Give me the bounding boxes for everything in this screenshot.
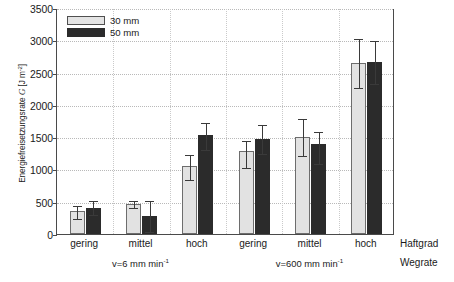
gridline-y: [57, 41, 393, 42]
legend-swatch-50mm: [67, 28, 105, 37]
error-bar-cap: [201, 150, 210, 151]
y-tick-label: 3500: [30, 4, 53, 15]
y-tick-label: 2000: [30, 100, 53, 111]
x-tick-label: gering: [239, 238, 267, 249]
error-bar-cap: [298, 156, 307, 157]
error-bar-cap: [298, 119, 307, 120]
error-bar-cap: [145, 201, 154, 202]
y-tick-label: 500: [36, 197, 53, 208]
error-bar: [190, 155, 191, 180]
x-tick-label: mittel: [298, 238, 322, 249]
x-axis-name-haftgrad: Haftgrad: [400, 238, 438, 249]
error-bar-cap: [73, 219, 82, 220]
error-bar-cap: [258, 125, 267, 126]
y-tick-mark: [53, 235, 57, 236]
legend: 30 mm 50 mm: [67, 15, 139, 39]
y-tick-label: 2500: [30, 68, 53, 79]
gridline-y: [57, 138, 393, 139]
error-bar-cap: [354, 39, 363, 40]
y-tick-mark: [53, 9, 57, 10]
error-bar-cap: [185, 180, 194, 181]
error-bar: [246, 141, 247, 168]
error-bar: [375, 41, 376, 84]
caption-strip: [10, 275, 340, 280]
plot-area: 30 mm 50 mm 0500100015002000250030003500: [56, 9, 394, 235]
x-tick-label: gering: [70, 238, 98, 249]
legend-label-30mm: 30 mm: [110, 15, 139, 26]
y-tick-label: 3000: [30, 36, 53, 47]
error-bar: [150, 201, 151, 232]
error-bar-cap: [370, 84, 379, 85]
y-tick-mark: [53, 41, 57, 42]
gridline-y: [57, 74, 393, 75]
gridline-x: [170, 9, 171, 234]
x-tick-label: hoch: [355, 238, 377, 249]
y-tick-mark: [53, 170, 57, 171]
y-tick-label: 1500: [30, 133, 53, 144]
legend-label-50mm: 50 mm: [110, 27, 139, 38]
error-bar-cap: [185, 155, 194, 156]
y-axis-unit-open: [J m: [17, 71, 27, 88]
y-tick-mark: [53, 106, 57, 107]
error-bar: [359, 39, 360, 88]
gridline-x: [339, 9, 340, 234]
gridline-x: [226, 9, 227, 234]
y-tick-mark: [53, 138, 57, 139]
error-bar-cap: [242, 141, 251, 142]
error-bar-cap: [129, 208, 138, 209]
error-bar-cap: [89, 215, 98, 216]
legend-item: 50 mm: [67, 27, 139, 38]
x-group-label-text: v=600 mm min: [276, 258, 338, 269]
y-axis-unit-close: ]: [17, 64, 27, 66]
error-bar-cap: [73, 206, 82, 207]
error-bar-cap: [201, 123, 210, 124]
energy-release-rate-bar-chart: Energiefreisetzungsrate G [J m-2] 30 mm …: [0, 0, 454, 282]
error-bar: [206, 123, 207, 151]
error-bar-cap: [314, 132, 323, 133]
error-bar-cap: [145, 232, 154, 233]
x-group-label: v=6 mm min-1: [112, 257, 169, 269]
y-axis-symbol: G: [17, 89, 27, 96]
error-bar-cap: [242, 168, 251, 169]
y-tick-label: 0: [47, 230, 53, 241]
y-axis-title-text: Energiefreisetzungsrate: [17, 98, 27, 183]
legend-item: 30 mm: [67, 15, 139, 26]
x-tick-label: mittel: [129, 238, 153, 249]
x-group-label-exponent: -1: [163, 257, 169, 264]
gridline-y: [57, 170, 393, 171]
y-tick-mark: [53, 203, 57, 204]
y-axis-unit-exponent: -2: [17, 66, 23, 71]
error-bar-cap: [354, 88, 363, 89]
error-bar-cap: [258, 154, 267, 155]
x-tick-label: hoch: [186, 238, 208, 249]
legend-swatch-30mm: [67, 16, 105, 25]
error-bar-cap: [129, 201, 138, 202]
error-bar: [262, 125, 263, 153]
gridline-x: [113, 9, 114, 234]
error-bar-cap: [370, 41, 379, 42]
error-bar-cap: [314, 164, 323, 165]
y-tick-label: 1000: [30, 165, 53, 176]
error-bar-cap: [89, 201, 98, 202]
y-axis-title: Energiefreisetzungsrate G [J m-2]: [17, 18, 28, 228]
gridline-y: [57, 106, 393, 107]
bar: [367, 62, 382, 234]
x-group-label: v=600 mm min-1: [276, 257, 343, 269]
error-bar: [319, 132, 320, 164]
error-bar: [77, 206, 78, 219]
gridline-x: [282, 9, 283, 234]
error-bar: [93, 201, 94, 215]
gridline-y: [57, 203, 393, 204]
y-tick-mark: [53, 74, 57, 75]
gridline-y: [57, 9, 393, 10]
error-bar: [303, 119, 304, 156]
x-axis-name-wegrate: Wegrate: [400, 257, 438, 268]
x-group-label-text: v=6 mm min: [112, 258, 163, 269]
x-group-label-exponent: -1: [338, 257, 344, 264]
